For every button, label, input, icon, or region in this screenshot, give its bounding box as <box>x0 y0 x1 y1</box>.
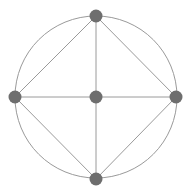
node-center <box>90 91 103 104</box>
edge-right-bottom <box>96 97 176 179</box>
node-right <box>170 91 183 104</box>
node-top <box>90 10 103 23</box>
graph-diagram <box>0 0 192 194</box>
node-left <box>9 91 22 104</box>
edge-top-right <box>96 16 176 97</box>
node-bottom <box>90 173 103 186</box>
edge-top-left <box>15 16 96 97</box>
